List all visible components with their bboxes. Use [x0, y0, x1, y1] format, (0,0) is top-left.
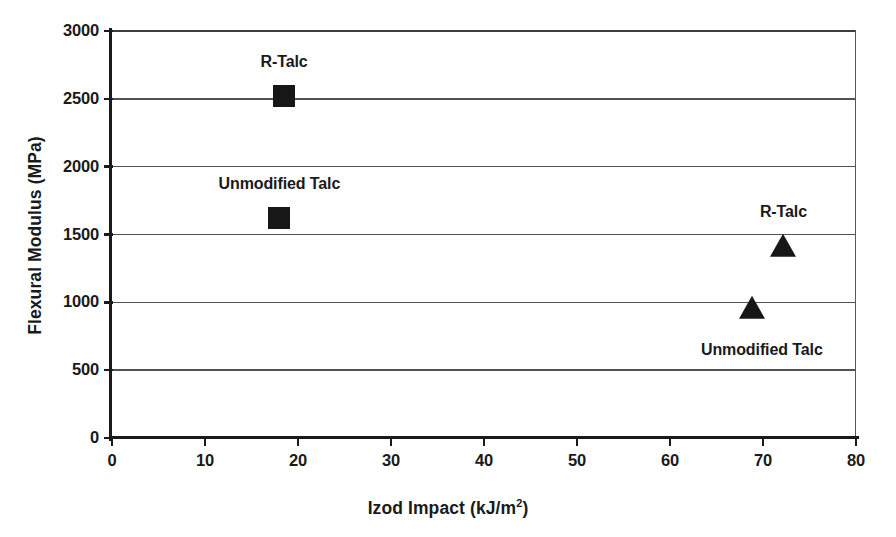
x-axis-tick-label-20: 20: [268, 452, 328, 469]
x-axis-tick-label-30: 30: [361, 452, 421, 469]
y-axis-tick-label-500: 500: [72, 361, 99, 378]
y-axis-tick-label-wrap-1500: 1500: [0, 226, 99, 244]
x-axis-tick-label-70: 70: [733, 452, 793, 469]
data-point-label-0: R-Talc: [260, 54, 307, 70]
x-axis-line: [109, 436, 859, 439]
plot-frame-right-edge: [855, 31, 856, 439]
y-axis-tick-label-0: 0: [90, 429, 99, 446]
y-axis-tick-label-3000: 3000: [63, 22, 99, 39]
x-axis-title-base: Izod Impact (kJ/m: [368, 498, 517, 518]
x-axis-title-tail: ): [522, 498, 528, 518]
gridline-y-1500: [112, 234, 856, 235]
gridline-y-2000: [112, 166, 856, 167]
scatter-chart: 050010001500200025003000 010203040506070…: [0, 0, 896, 537]
y-axis-tick-label-wrap-3000: 3000: [0, 22, 99, 40]
y-axis-tick-label-wrap-1000: 1000: [0, 293, 99, 311]
data-point-label-1: Unmodified Talc: [219, 176, 341, 192]
x-axis-tick-label-60: 60: [640, 452, 700, 469]
x-axis-tick-label-40: 40: [454, 452, 514, 469]
x-axis-tick-label-0: 0: [82, 452, 142, 469]
y-axis-tick-label-wrap-2500: 2500: [0, 90, 99, 108]
y-axis-tick-label-1000: 1000: [63, 293, 99, 310]
data-point-triangle-2: [770, 234, 796, 257]
gridline-y-3000: [112, 30, 856, 32]
x-axis-tick-label-10: 10: [175, 452, 235, 469]
x-axis-title: Izod Impact (kJ/m2): [0, 498, 896, 519]
y-axis-tick-label-2500: 2500: [63, 90, 99, 107]
x-axis-tick-label-80: 80: [826, 452, 886, 469]
data-point-square-1: [268, 207, 290, 229]
x-axis-tick-label-50: 50: [547, 452, 607, 469]
gridline-y-500: [112, 369, 856, 370]
y-axis-tick-label-wrap-2000: 2000: [0, 158, 99, 176]
data-point-label-3: Unmodified Talc: [701, 342, 823, 358]
data-point-label-2: R-Talc: [760, 204, 807, 220]
data-point-square-0: [273, 85, 295, 107]
y-axis-title: Flexural Modulus (MPa): [25, 36, 46, 436]
gridline-y-2500: [112, 98, 856, 99]
y-axis-tick-label-2000: 2000: [63, 158, 99, 175]
y-axis-tick-label-1500: 1500: [63, 226, 99, 243]
y-axis-line: [109, 28, 112, 441]
y-axis-tick-label-wrap-500: 500: [0, 361, 99, 379]
y-axis-tick-label-wrap-0: 0: [0, 429, 99, 447]
data-point-triangle-3: [739, 296, 765, 319]
